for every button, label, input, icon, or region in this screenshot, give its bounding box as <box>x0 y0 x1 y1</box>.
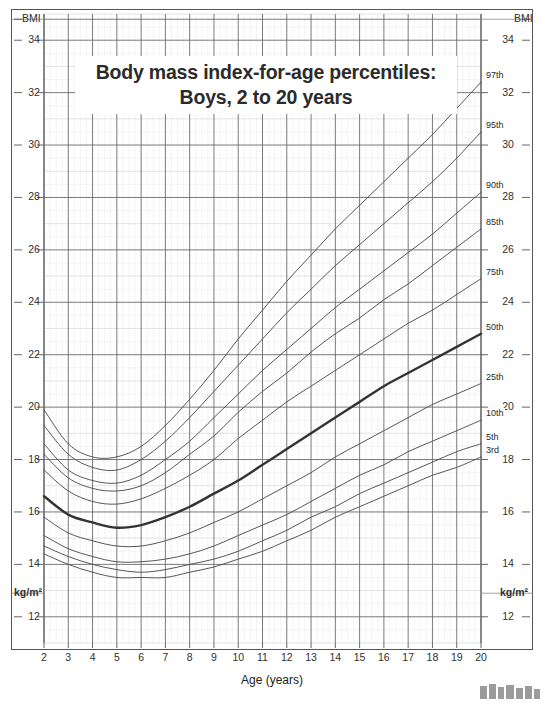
x-tick-label: 10 <box>228 651 248 663</box>
x-tick-label: 13 <box>301 651 321 663</box>
y-axis-unit-right: kg/m² <box>500 586 528 598</box>
y-tick-label-left: 24 <box>24 295 44 307</box>
x-tick-label: 8 <box>180 651 200 663</box>
chart-title-line-2: Boys, 2 to 20 years <box>180 85 353 110</box>
y-tick-label-right: 14 <box>498 557 518 569</box>
x-tick-label: 4 <box>83 651 103 663</box>
y-axis-label-right: BMI <box>514 12 533 24</box>
y-tick-label-right: 16 <box>498 505 518 517</box>
x-tick-label: 6 <box>131 651 151 663</box>
y-tick-label-right: 22 <box>498 348 518 360</box>
x-tick-label: 5 <box>107 651 127 663</box>
y-tick-label-left: 20 <box>24 400 44 412</box>
y-tick-label-right: 24 <box>498 295 518 307</box>
y-tick-label-left: 26 <box>24 243 44 255</box>
chart-title-box: Body mass index-for-age percentiles: Boy… <box>75 56 457 114</box>
x-tick-label: 11 <box>253 651 273 663</box>
x-tick-label: 18 <box>422 651 442 663</box>
y-tick-label-left: 34 <box>24 33 44 45</box>
x-tick-label: 9 <box>204 651 224 663</box>
percentile-label-25th: 25th <box>485 372 505 382</box>
x-tick-label: 16 <box>374 651 394 663</box>
y-tick-label-left: 16 <box>24 505 44 517</box>
y-tick-label-right: 18 <box>498 453 518 465</box>
percentile-label-95th: 95th <box>485 120 505 130</box>
percentile-label-5th: 5th <box>485 432 500 442</box>
agency-logo <box>480 684 540 701</box>
percentile-label-3rd: 3rd <box>485 445 500 455</box>
percentile-label-97th: 97th <box>485 70 505 80</box>
y-tick-label-left: 28 <box>24 190 44 202</box>
y-tick-label-right: 26 <box>498 243 518 255</box>
y-tick-label-left: 30 <box>24 138 44 150</box>
percentile-label-50th: 50th <box>485 322 505 332</box>
x-tick-label: 15 <box>350 651 370 663</box>
x-tick-label: 7 <box>155 651 175 663</box>
x-tick-label: 3 <box>58 651 78 663</box>
y-tick-label-left: 12 <box>24 610 44 622</box>
bmi-growth-chart: Body mass index-for-age percentiles: Boy… <box>0 0 544 703</box>
y-tick-label-right: 12 <box>498 610 518 622</box>
percentile-label-75th: 75th <box>485 267 505 277</box>
chart-title-line-1: Body mass index-for-age percentiles: <box>96 60 437 85</box>
y-tick-label-left: 32 <box>24 86 44 98</box>
x-tick-label: 2 <box>34 651 54 663</box>
x-tick-label: 20 <box>471 651 491 663</box>
percentile-label-85th: 85th <box>485 217 505 227</box>
x-tick-label: 17 <box>398 651 418 663</box>
y-tick-label-left: 14 <box>24 557 44 569</box>
x-tick-label: 14 <box>325 651 345 663</box>
percentile-label-10th: 10th <box>485 408 505 418</box>
y-tick-label-right: 34 <box>498 33 518 45</box>
x-tick-label: 12 <box>277 651 297 663</box>
percentile-label-90th: 90th <box>485 180 505 190</box>
y-axis-label-left: BMI <box>22 12 41 24</box>
y-axis-unit-left: kg/m² <box>14 586 42 598</box>
y-tick-label-right: 32 <box>498 86 518 98</box>
x-tick-label: 19 <box>447 651 467 663</box>
y-tick-label-right: 28 <box>498 190 518 202</box>
y-tick-label-right: 30 <box>498 138 518 150</box>
y-tick-label-left: 22 <box>24 348 44 360</box>
y-tick-label-left: 18 <box>24 453 44 465</box>
x-axis-title: Age (years) <box>0 673 544 687</box>
